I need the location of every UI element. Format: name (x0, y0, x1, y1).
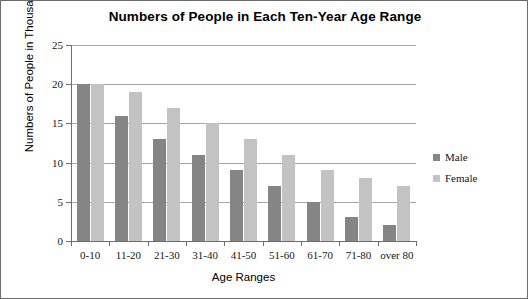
bar-female-0-10 (91, 84, 104, 241)
x-axis-line (71, 241, 417, 242)
x-tick (378, 242, 379, 246)
bar-series-layer (71, 45, 416, 241)
bar-male-0-10 (77, 84, 90, 241)
legend-swatch-icon (433, 154, 440, 161)
x-tick (224, 242, 225, 246)
x-tick (186, 242, 187, 246)
bar-female-over-80 (397, 186, 410, 241)
legend-item-female: Female (433, 172, 477, 184)
x-tick (71, 242, 72, 246)
x-tick (263, 242, 264, 246)
x-tick-label-11-20: 11-20 (109, 249, 147, 261)
legend-label: Female (445, 172, 477, 184)
bar-female-11-20 (129, 92, 142, 241)
chart-legend: MaleFemale (433, 151, 477, 193)
y-tick-label-15: 15 (23, 117, 63, 129)
bar-female-51-60 (282, 155, 295, 241)
bar-group (301, 45, 339, 241)
x-tick-label-41-50: 41-50 (224, 249, 262, 261)
bar-female-61-70 (321, 170, 334, 241)
x-tick-label-51-60: 51-60 (263, 249, 301, 261)
legend-item-male: Male (433, 151, 477, 163)
x-tick-label-71-80: 71-80 (339, 249, 377, 261)
x-tick (416, 242, 417, 246)
chart-figure: Numbers of People in Each Ten-Year Age R… (0, 0, 528, 299)
bar-group (378, 45, 416, 241)
legend-label: Male (445, 151, 468, 163)
bar-group (339, 45, 377, 241)
x-axis-title: Age Ranges (71, 271, 416, 283)
x-tick (109, 242, 110, 246)
bar-male-41-50 (230, 170, 243, 241)
x-tick-label-61-70: 61-70 (301, 249, 339, 261)
bar-group (71, 45, 109, 241)
bar-male-11-20 (115, 116, 128, 241)
y-tick-label-5: 5 (23, 196, 63, 208)
x-tick (301, 242, 302, 246)
bar-male-71-80 (345, 217, 358, 241)
x-tick (339, 242, 340, 246)
y-tick-label-0: 0 (23, 235, 63, 247)
x-tick-label-21-30: 21-30 (148, 249, 186, 261)
x-tick-label-31-40: 31-40 (186, 249, 224, 261)
bar-male-61-70 (307, 202, 320, 241)
bar-female-31-40 (206, 123, 219, 241)
bar-female-41-50 (244, 139, 257, 241)
bar-group (186, 45, 224, 241)
legend-swatch-icon (433, 175, 440, 182)
x-tick-label-over-80: over 80 (378, 249, 416, 261)
bar-group (224, 45, 262, 241)
y-tick-label-20: 20 (23, 78, 63, 90)
bar-group (263, 45, 301, 241)
y-tick-label-10: 10 (23, 157, 63, 169)
y-tick-label-25: 25 (23, 39, 63, 51)
bar-female-71-80 (359, 178, 372, 241)
bar-male-51-60 (268, 186, 281, 241)
bar-male-21-30 (153, 139, 166, 241)
x-tick-label-0-10: 0-10 (71, 249, 109, 261)
bar-group (148, 45, 186, 241)
page-title: Numbers of People in Each Ten-Year Age R… (1, 9, 528, 24)
x-tick (148, 242, 149, 246)
bar-male-over-80 (383, 225, 396, 241)
bar-male-31-40 (192, 155, 205, 241)
bar-group (109, 45, 147, 241)
bar-female-21-30 (167, 108, 180, 241)
